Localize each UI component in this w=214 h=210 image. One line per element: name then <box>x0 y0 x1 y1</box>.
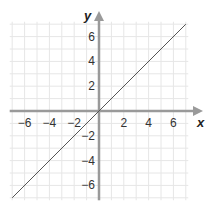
y-tick-label: 4 <box>88 54 95 68</box>
x-tick-label: −2 <box>67 116 81 130</box>
x-tick-label: −4 <box>43 116 57 130</box>
y-axis-arrow-icon <box>94 11 104 21</box>
x-tick-label: 6 <box>170 116 177 130</box>
y-tick-label: 2 <box>88 79 95 93</box>
y-axis-label: y <box>83 8 92 23</box>
y-tick-label: −6 <box>81 178 95 192</box>
y-tick-label: 6 <box>88 30 95 44</box>
x-tick-label: 4 <box>145 116 152 130</box>
y-tick-label: −2 <box>81 129 95 143</box>
x-tick-label: 2 <box>120 116 127 130</box>
y-tick-label: −4 <box>81 154 95 168</box>
x-axis-label: x <box>196 115 205 130</box>
coordinate-plane: −6−4−2246−6−4−2246 x y <box>0 0 214 210</box>
x-tick-label: −6 <box>18 116 32 130</box>
